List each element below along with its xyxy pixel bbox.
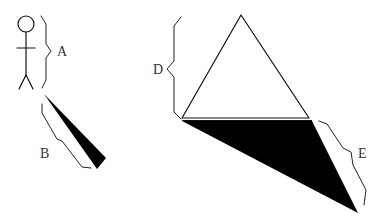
stick-figure-legs (19, 75, 33, 89)
label-a: A (57, 44, 68, 59)
triangle (182, 15, 309, 118)
brace-d (167, 17, 181, 119)
label-e: E (358, 146, 367, 161)
label-d: D (153, 62, 163, 77)
stick-figure (17, 16, 35, 89)
brace-a (41, 16, 51, 88)
label-b: B (40, 146, 49, 161)
stick-figure-head (18, 16, 34, 32)
diagram-canvas: A B D E (0, 0, 383, 224)
triangle-shadow (182, 121, 358, 213)
